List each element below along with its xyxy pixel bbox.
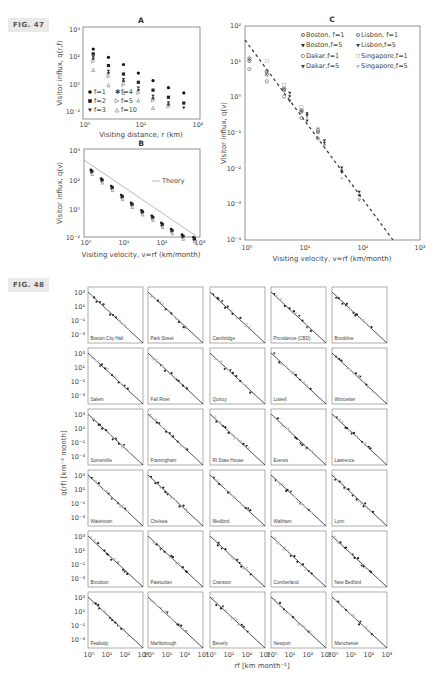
fig48-ytick: 10⁻¹ [71,378,86,386]
svg-text:Boston, f=1: Boston, f=1 [306,31,344,39]
panel-c-xtick: 10¹ [300,244,311,252]
panel-a-ytick: 10⁻² [66,108,81,116]
fig48-panel-axes [332,592,387,648]
fig48-panel: Watertown [88,470,143,526]
panel-a-xtick: 10⁰ [80,121,91,129]
fig48-city-label: Beverly [213,641,229,646]
fig48-xlabel: rf [km month⁻¹] [234,662,290,670]
panel-a-legend: f=1 ✱ f=4 f=2 f=5 f=3 f=10 [88,88,137,114]
fig48-xtick: 10¹ [285,651,296,659]
fig48-panel: Everett [271,409,326,465]
fig48-xtick: 10¹ [102,651,113,659]
panel-c-ytick: 10⁰ [230,93,241,101]
fig48-panel-axes [210,348,265,404]
fig48-panel: Providence (CBD) [271,287,326,343]
fig48-city-label: RI State House [213,458,245,463]
fig48-ytick: 10³ [74,533,85,541]
fig48-xtick: 10² [180,651,191,659]
fig48-city-label: Fall River [151,397,171,402]
fig48-city-label: Manchester [335,641,359,646]
fig48-ytick: 10¹ [74,425,85,433]
panel-c-xtick: 10³ [415,244,426,252]
fig48-ytick: 10⁻³ [71,392,86,400]
fig48-ytick: 10⁻¹ [71,439,86,447]
fig48-panel-axes [88,470,143,526]
panel-a-ytick: 10² [69,53,80,61]
fig48-panel: Framingham [148,409,203,465]
fig48-xtick: 10² [120,651,131,659]
fig48-city-label: Newport [274,641,292,646]
fig48-xtick: 10⁰ [144,651,155,659]
svg-text:f=2: f=2 [94,97,106,105]
fig48-panel: Waltham [271,470,326,526]
panel-b-xtick: 10² [157,239,168,247]
svg-text:f=4: f=4 [121,88,133,96]
panel-c-xlabel: Visiting velocity, v=rf (km/month) [273,255,392,263]
fig48-city-label: Cambridge [213,336,236,341]
panel-c-ytick: 10¹ [230,58,241,66]
fig48-panel: Park Street [148,287,203,343]
fig48-panel-axes [148,592,203,648]
fig48-city-label: Chelsea [151,519,168,524]
fig48-ytick: 10¹ [74,608,85,616]
fig48-panel: Salem [88,348,143,404]
fig48-panel-axes [88,287,143,343]
fig48-panel: Worcester [332,348,387,404]
fig48-xtick: 10¹ [346,651,357,659]
fig48-city-label: Lawrence [335,458,355,463]
fig48-panel-axes [271,592,326,648]
fig48-panel: Lynn [332,470,387,526]
fig48-panel: Manchester [332,592,387,648]
svg-text:f=1: f=1 [94,88,106,96]
fig48-city-label: Framingham [151,458,177,463]
panel-c-ytick: 10⁻¹ [227,129,242,137]
fig48-panel: Marlborough [148,592,203,648]
fig48-xtick: 10² [303,651,314,659]
fig48-panel: Beverly [210,592,265,648]
panel-c-xtick: 10² [358,244,369,252]
fig48-panel-axes [271,470,326,526]
fig48-panel: Lowell [271,348,326,404]
fig48-panel-axes [88,409,143,465]
fig48-city-label: Medford [213,519,230,524]
fig48-city-label: Salem [91,397,104,402]
fig48-panel-axes [332,470,387,526]
panel-b-title: B [138,139,144,148]
fig48-city-label: Marlborough [151,641,177,646]
fig48-ytick: 10⁻³ [71,453,86,461]
fig48-panel-axes [148,348,203,404]
svg-text:Lisbon, f=1: Lisbon, f=1 [361,31,398,39]
fig48-panel-axes [332,409,387,465]
panel-a-ylabel: Visitor influx, q(r,f) [56,40,64,106]
fig48-panel-axes [332,531,387,587]
fig48-xtick: 10¹ [224,651,235,659]
fig48-panel: Newport [271,592,326,648]
fig48-ytick: 10⁻¹ [71,317,86,325]
fig48-panel: Chelsea [148,470,203,526]
fig48-ytick: 10⁻³ [71,636,86,644]
panel-c-ytick: 10⁻³ [227,200,242,208]
fig48-ytick: 10⁻¹ [71,622,86,630]
panel-c-title: C [329,15,335,24]
fig48-city-label: Cranston [213,580,232,585]
fig48-city-label: Cumberland [274,580,299,585]
fig48-panel: Brockton [88,531,143,587]
fig48-city-label: Quincy [213,397,228,402]
fig48-xtick: 10² [242,651,253,659]
fig48-panel: Quincy [210,348,265,404]
fig48-city-label: New Bedford [335,580,362,585]
fig48-panel: Brookline [332,287,387,343]
fig48-ytick: 10³ [74,472,85,480]
fig48-city-label: Brookline [335,336,355,341]
fig48-panel-axes [332,287,387,343]
svg-text:Lisbon,f=5: Lisbon,f=5 [361,41,396,49]
fig48-city-label: Somerville [91,458,113,463]
fig48-panel: Medford [210,470,265,526]
panel-b-ylabel: Visitor influx, q(v) [56,162,64,224]
fig48-ylabel: q(rf) [km⁻² month] [60,430,68,496]
fig48-city-label: Lowell [274,397,287,402]
fig48-city-label: Lynn [335,519,345,524]
panel-b-ytick: 10⁴ [69,147,80,155]
fig48-ytick: 10¹ [74,547,85,555]
fig48-ytick: 10⁻³ [71,514,86,522]
